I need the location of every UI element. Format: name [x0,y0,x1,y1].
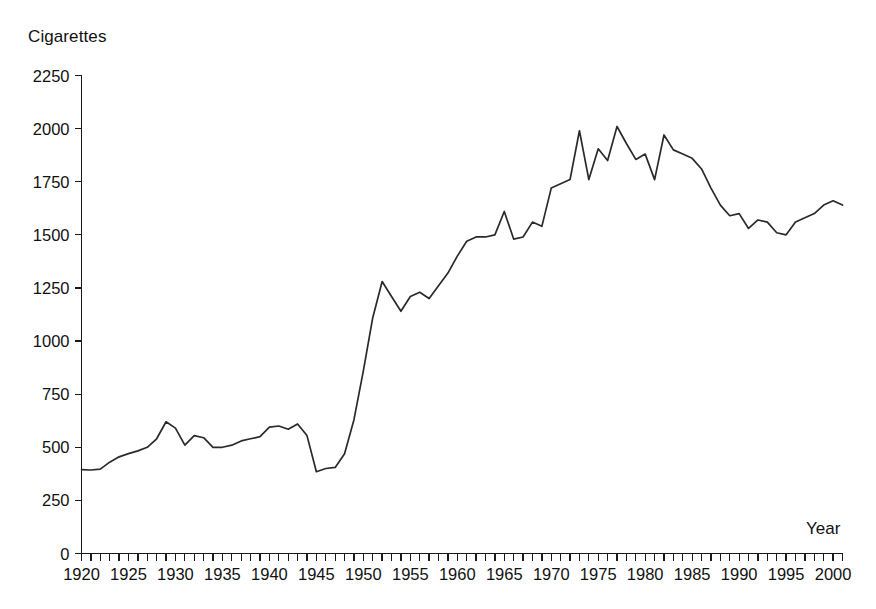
y-tick-label: 1250 [33,279,70,297]
x-tick-label: 1925 [110,565,147,583]
y-tick-label: 2250 [33,67,70,85]
x-tick-label: 1970 [533,565,570,583]
y-tick-label: 1000 [33,332,70,350]
y-tick-label: 750 [42,385,70,403]
plot-area: 0250500750100012501500175020002250 19201… [0,0,876,609]
y-tick-label: 2000 [33,120,70,138]
y-tick-marks [75,76,82,554]
x-tick-labels: 1920192519301935194019451950195519601965… [63,565,851,583]
x-tick-label: 1965 [486,565,523,583]
y-tick-label: 1750 [33,173,70,191]
x-tick-label: 2000 [815,565,852,583]
data-series-line [82,126,843,471]
x-tick-label: 1955 [392,565,429,583]
x-tick-marks [82,554,843,561]
x-tick-label: 1950 [345,565,382,583]
y-tick-label: 250 [42,491,70,509]
x-tick-label: 1995 [768,565,805,583]
x-tick-label: 1975 [580,565,617,583]
x-tick-label: 1960 [439,565,476,583]
y-tick-label: 500 [42,438,70,456]
y-tick-label: 0 [60,545,69,563]
x-tick-label: 1945 [298,565,335,583]
x-tick-label: 1930 [157,565,194,583]
y-tick-labels: 0250500750100012501500175020002250 [33,67,70,563]
x-tick-label: 1990 [721,565,758,583]
cigarette-consumption-chart: Cigarettes Year 025050075010001250150017… [0,0,876,609]
x-tick-label: 1920 [63,565,100,583]
x-tick-label: 1985 [674,565,711,583]
y-tick-label: 1500 [33,226,70,244]
x-tick-label: 1935 [204,565,241,583]
x-tick-label: 1940 [251,565,288,583]
x-tick-label: 1980 [627,565,664,583]
